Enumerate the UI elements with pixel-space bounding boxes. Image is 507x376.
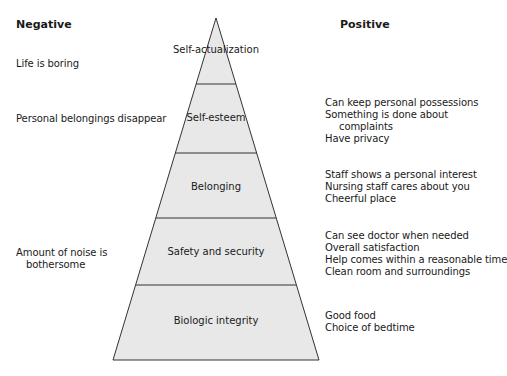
positive-biologic: Good food Choice of bedtime	[325, 310, 415, 334]
positive-item: Help comes within a reasonable time	[325, 254, 507, 266]
positive-item-continued: complaints	[325, 121, 478, 133]
negative-self-esteem: Personal belongings disappear	[16, 113, 166, 125]
level-belonging: Belonging	[191, 181, 241, 192]
positive-item: Can see doctor when needed	[325, 230, 507, 242]
level-self-actualization: Self-actualization	[173, 44, 259, 55]
negative-safety: Amount of noise is bothersome	[16, 247, 107, 271]
positive-safety: Can see doctor when needed Overall satis…	[325, 230, 507, 278]
negative-item-continued: bothersome	[16, 259, 107, 271]
level-biologic-integrity: Biologic integrity	[174, 315, 259, 326]
positive-item: Something is done about	[325, 109, 478, 121]
positive-item: Good food	[325, 310, 415, 322]
positive-item: Staff shows a personal interest	[325, 169, 477, 181]
level-safety-and-security: Safety and security	[167, 246, 264, 257]
positive-self-esteem: Can keep personal possessions Something …	[325, 97, 478, 145]
positive-item: Can keep personal possessions	[325, 97, 478, 109]
negative-item: Personal belongings disappear	[16, 113, 166, 124]
positive-item: Have privacy	[325, 133, 478, 145]
negative-self-actualization: Life is boring	[16, 58, 79, 70]
positive-item: Choice of bedtime	[325, 322, 415, 334]
positive-item: Nursing staff cares about you	[325, 181, 477, 193]
positive-item: Cheerful place	[325, 193, 477, 205]
level-self-esteem: Self-esteem	[186, 112, 245, 123]
negative-header: Negative	[16, 18, 72, 31]
negative-item: Life is boring	[16, 58, 79, 69]
negative-item: Amount of noise is	[16, 247, 107, 259]
positive-belonging: Staff shows a personal interest Nursing …	[325, 169, 477, 205]
positive-item: Clean room and surroundings	[325, 266, 507, 278]
positive-item: Overall satisfaction	[325, 242, 507, 254]
positive-header: Positive	[340, 18, 390, 31]
